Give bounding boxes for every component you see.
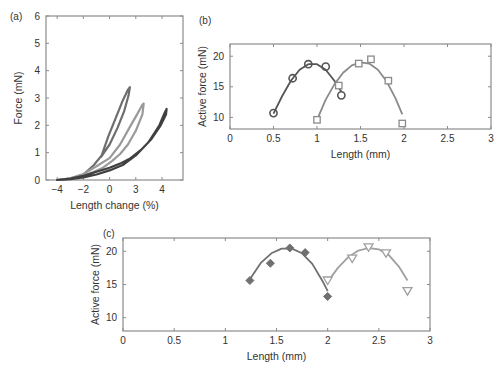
y-axis-title: Active force (mN)	[89, 244, 101, 325]
square-marker	[368, 56, 374, 62]
diamond-marker	[301, 249, 309, 257]
panel-a-force-length-loops: (a)−4−20340123456Length change (%)Force …	[10, 11, 183, 212]
diamond-marker	[324, 292, 332, 300]
series-triangles	[323, 244, 412, 295]
panel-b-active-force-length: (b)00.511.522.53101520Length (mm)Active …	[196, 15, 494, 160]
triangle-marker	[348, 255, 357, 263]
x-tick-label: −2	[78, 184, 90, 195]
triangle-marker	[403, 288, 412, 296]
x-tick-label: 0.5	[167, 335, 181, 346]
axes-frame	[230, 44, 491, 129]
loop-curve	[57, 104, 144, 181]
y-tick-label: 15	[106, 279, 118, 290]
y-axis-title: Force (mN)	[12, 71, 24, 124]
series-loop-3	[57, 109, 167, 180]
series-loop-2	[57, 104, 144, 181]
panel-label: (b)	[199, 15, 211, 26]
x-tick-label: 2	[401, 133, 407, 144]
series-squares	[314, 56, 406, 127]
x-axis-title: Length change (%)	[70, 199, 159, 211]
x-tick-label: 0.5	[267, 133, 281, 144]
y-tick-label: 6	[34, 11, 40, 22]
square-marker	[314, 117, 320, 123]
fit-curve	[250, 249, 328, 292]
x-tick-label: −4	[51, 184, 63, 195]
y-tick-label: 1	[34, 147, 40, 158]
series-circles	[270, 61, 345, 117]
fit-curve	[328, 248, 408, 282]
x-tick-label: 0	[107, 184, 113, 195]
square-marker	[356, 60, 362, 66]
y-tick-label: 3	[34, 93, 40, 104]
y-axis-title: Active force (mN)	[196, 46, 208, 127]
y-tick-label: 5	[34, 38, 40, 49]
diamond-marker	[286, 244, 294, 252]
x-tick-label: 1.5	[270, 335, 284, 346]
circle-marker	[338, 92, 345, 99]
y-tick-label: 10	[213, 112, 225, 123]
x-tick-label: 3	[488, 133, 494, 144]
x-tick-label: 2	[325, 335, 331, 346]
panel-label: (a)	[10, 11, 22, 22]
x-axis-title: Length (mm)	[247, 350, 307, 362]
x-tick-label: 0	[120, 335, 126, 346]
square-marker	[336, 82, 342, 88]
x-tick-label: 4	[159, 184, 165, 195]
y-tick-label: 2	[34, 120, 40, 131]
square-marker	[385, 77, 391, 83]
panel-label: (c)	[103, 228, 115, 239]
y-tick-label: 15	[213, 81, 225, 92]
series-diamonds	[246, 244, 332, 300]
chart-canvas: (a)−4−20340123456Length change (%)Force …	[0, 0, 503, 372]
x-tick-label: 1.5	[354, 133, 368, 144]
x-tick-label: 1	[314, 133, 320, 144]
x-tick-label: 2.5	[372, 335, 386, 346]
y-tick-label: 10	[106, 312, 118, 323]
diamond-marker	[266, 259, 274, 267]
axes-frame	[46, 16, 183, 180]
figure: (a)−4−20340123456Length change (%)Force …	[0, 0, 503, 372]
y-tick-label: 4	[34, 65, 40, 76]
diamond-marker	[246, 277, 254, 285]
loop-curve	[57, 109, 167, 180]
panel-c-active-force-length: (c)00.511.522.53101520Length (mm)Active …	[89, 228, 433, 362]
x-axis-title: Length (mm)	[331, 148, 391, 160]
x-tick-label: 0	[227, 133, 233, 144]
y-tick-label: 20	[213, 51, 225, 62]
x-tick-label: 3	[133, 184, 139, 195]
y-tick-label: 0	[34, 175, 40, 186]
x-tick-label: 1	[223, 335, 229, 346]
fit-curve	[317, 62, 402, 120]
x-tick-label: 3	[427, 335, 433, 346]
square-marker	[399, 120, 405, 126]
y-tick-label: 20	[106, 246, 118, 257]
x-tick-label: 2.5	[441, 133, 455, 144]
